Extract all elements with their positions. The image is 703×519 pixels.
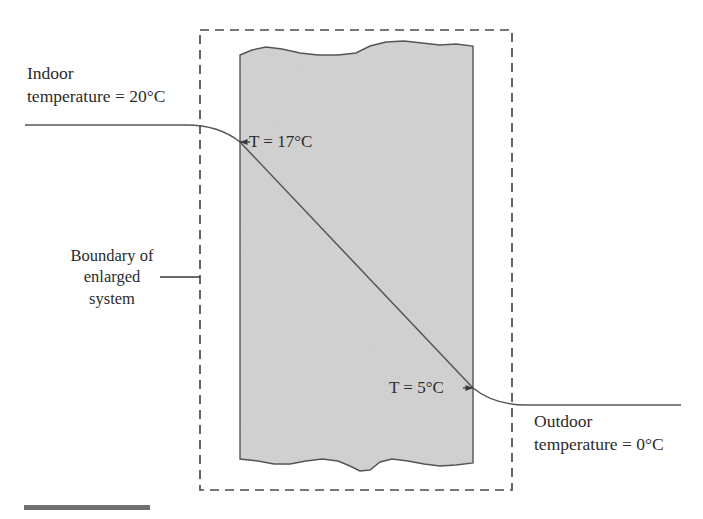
inner-surface-temperature-label: T = 17°C (249, 131, 312, 153)
system-boundary-label: Boundary of enlarged system (62, 245, 162, 309)
boundary-label-line-1: Boundary of (62, 245, 162, 266)
page-artifact-bar (24, 505, 150, 510)
heat-conduction-diagram: Indoor temperature = 20°C Outdoor temper… (0, 0, 703, 519)
outdoor-label-line-2: temperature = 0°C (534, 433, 664, 456)
wall-slab (236, 38, 478, 476)
boundary-label-line-3: system (62, 288, 162, 309)
boundary-label-line-2: enlarged (62, 266, 162, 287)
outdoor-temperature-curve (473, 388, 681, 405)
indoor-temperature-label: Indoor temperature = 20°C (27, 62, 165, 108)
indoor-label-line-1: Indoor (27, 62, 165, 85)
outdoor-label-line-1: Outdoor (534, 410, 664, 433)
indoor-temperature-curve (25, 125, 240, 142)
outdoor-temperature-label: Outdoor temperature = 0°C (534, 410, 664, 456)
wall-texture (236, 38, 478, 476)
outer-surface-temperature-label: T = 5°C (389, 377, 444, 399)
indoor-label-line-2: temperature = 20°C (27, 85, 165, 108)
